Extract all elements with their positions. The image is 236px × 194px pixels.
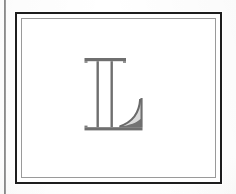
scanned-page (0, 0, 236, 194)
initial-letter-stage (22, 19, 215, 177)
decorative-frame-inner-rule (21, 18, 216, 178)
drop-cap-letter-l (83, 56, 155, 140)
decorative-frame-outer-rule (15, 12, 222, 184)
vertical-margin-rule (4, 0, 6, 194)
